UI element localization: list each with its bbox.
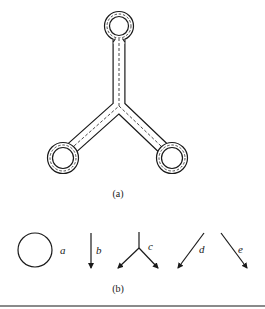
element-a-circle	[18, 233, 52, 267]
ring-top	[105, 12, 134, 41]
label-b: b	[96, 244, 102, 256]
ring-left	[48, 143, 79, 174]
label-d: d	[199, 243, 205, 255]
label-e: e	[238, 243, 243, 255]
caption-a: (a)	[112, 188, 123, 200]
element-legend	[18, 232, 247, 268]
label-a: a	[60, 244, 66, 256]
figure: (a) a b c d e (b)	[0, 0, 265, 309]
element-e-arrow	[221, 233, 247, 268]
ring-right	[157, 143, 188, 174]
label-c: c	[148, 240, 153, 252]
tube-outer-wall	[72, 40, 163, 148]
bottom-rule	[0, 305, 265, 307]
caption-b: (b)	[112, 283, 124, 295]
y-tube-diagram	[48, 12, 188, 174]
